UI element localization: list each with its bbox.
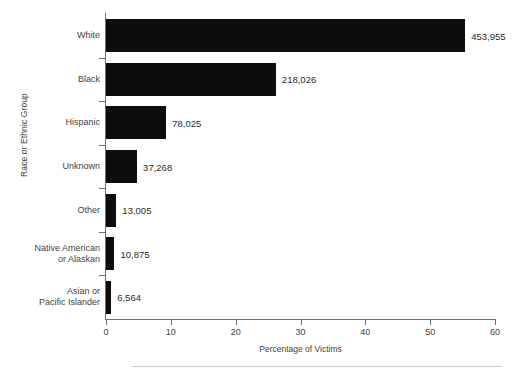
y-tick — [99, 101, 106, 102]
bar-row: 6,564 — [106, 281, 518, 314]
x-tick — [301, 319, 302, 325]
x-tick — [365, 319, 366, 325]
category-label-hispanic: Hispanic — [4, 117, 100, 128]
category-label-native-american: Native American or Alaskan — [4, 243, 100, 265]
bar-value-label: 78,025 — [166, 117, 201, 128]
x-tick — [236, 319, 237, 325]
x-tick-label: 0 — [91, 327, 121, 337]
x-tick-label: 40 — [350, 327, 380, 337]
x-tick — [106, 319, 107, 325]
bar-white — [106, 19, 465, 52]
y-tick — [99, 188, 106, 189]
category-label-unknown: Unknown — [4, 161, 100, 172]
bar-black — [106, 63, 276, 96]
bar-other — [106, 194, 116, 227]
bar-native-american-or-alaskan — [106, 237, 114, 270]
y-tick — [99, 145, 106, 146]
bar-row: 218,026 — [106, 63, 518, 96]
bar-row: 37,268 — [106, 150, 518, 183]
x-tick-label: 10 — [156, 327, 186, 337]
x-tick-label: 50 — [415, 327, 445, 337]
y-tick — [99, 275, 106, 276]
bar-row: 453,955 — [106, 19, 518, 52]
x-tick — [171, 319, 172, 325]
x-tick-label: 30 — [286, 327, 316, 337]
category-label-asian-or: Asian or Pacific Islander — [4, 286, 100, 308]
bar-value-label: 37,268 — [137, 161, 172, 172]
category-label-black: Black — [4, 74, 100, 85]
bar-value-label: 6,564 — [111, 292, 141, 303]
chart-title-cropped — [30, 0, 290, 4]
x-tick-label: 60 — [480, 327, 510, 337]
bar-value-label: 218,026 — [276, 74, 316, 85]
bar-unknown — [106, 150, 137, 183]
x-axis-title: Percentage of Victims — [106, 344, 495, 354]
bar-value-label: 10,875 — [114, 248, 149, 259]
bar-row: 13,005 — [106, 194, 518, 227]
bar-value-label: 13,005 — [116, 205, 151, 216]
bar-value-label: 453,955 — [465, 30, 505, 41]
bar-row: 10,875 — [106, 237, 518, 270]
category-label-other: Other — [4, 205, 100, 216]
y-tick — [99, 232, 106, 233]
x-tick — [430, 319, 431, 325]
y-axis-title: Race or Ethnic Group — [19, 65, 29, 205]
x-tick — [495, 319, 496, 325]
footer-divider — [132, 366, 502, 367]
bar-row: 78,025 — [106, 106, 518, 139]
x-tick-label: 20 — [221, 327, 251, 337]
bar-chart: Race or Ethnic Group 453,955218,02678,02… — [0, 0, 518, 371]
bar-hispanic — [106, 106, 166, 139]
y-tick — [99, 58, 106, 59]
category-label-white: White — [4, 30, 100, 41]
